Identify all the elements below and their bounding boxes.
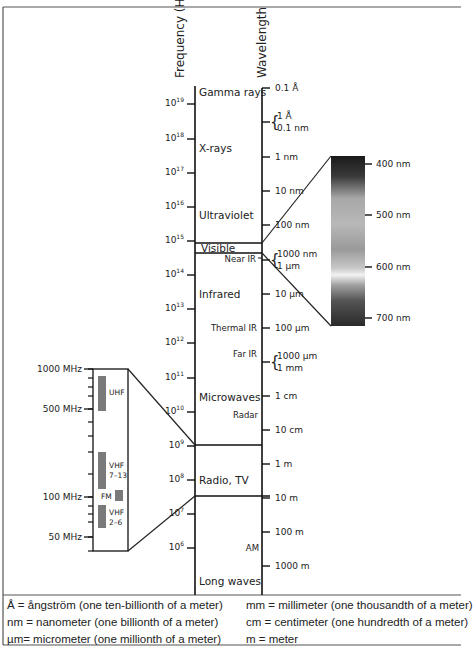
legend-millimeter: mm = millimeter (one thousandth of a met… [246,597,473,614]
frequency-tick-label: 1012 [165,335,184,347]
frequency-tick-label: 1016 [165,199,184,211]
radio-band-label: VHF [109,508,124,517]
frequency-tick-label: 1013 [165,301,184,313]
radio-band-label: FM [101,492,112,501]
wavelength-tick-label: 0.1 Å [275,82,299,93]
wavelength-tick-label-alt: 1 mm [277,363,303,373]
wavelength-tick-label: 1 Å [277,110,293,121]
wavelength-tick-label: 1000 µm [277,351,317,361]
frequency-tick-label: 1011 [165,370,184,382]
frequency-ticks: 1019101810171016101510141013101210111010… [165,96,195,552]
wavelength-tick-label: 10 µm [275,289,304,299]
wavelength-tick-label: 1 nm [275,152,298,162]
band-label: Ultraviolet [199,209,254,221]
subband-label: Near IR [225,254,257,264]
legend-right: mm = millimeter (one thousandth of a met… [246,597,473,647]
radio-band-bar [98,505,106,528]
radio-tick-label: 500 MHz [43,404,83,414]
visible-spectrum-ticks: 400 nm500 nm600 nm700 nm [365,159,411,323]
visible-tick-label: 600 nm [376,262,411,272]
radio-band-bar [115,490,123,501]
visible-spectrum-inset: 400 nm500 nm600 nm700 nm [262,156,411,326]
radio-tick-label: 100 MHz [43,492,83,502]
legend-left: Å = ångström (one ten-billionth of a met… [7,597,223,647]
wavelength-axis-title: Wavelength [255,7,269,78]
wavelength-tick-label: 100 µm [275,323,310,333]
frequency-tick-label: 1018 [165,131,184,143]
radio-band-label: VHF [109,461,124,470]
frequency-tick-label: 1019 [165,96,184,108]
band-labels: Gamma raysX-raysUltravioletVisibleInfrar… [199,86,266,587]
wavelength-tick-label: 1000 m [275,561,310,571]
frequency-tick-label: 1017 [165,165,184,177]
band-label: Microwaves [199,391,260,403]
frequency-tick-label: 1014 [165,267,184,279]
legend-meter: m = meter [246,631,473,647]
radio-ticks: 1000 MHz500 MHz100 MHz50 MHz [37,364,93,542]
radio-minor-ticks [88,369,93,551]
radio-tick-label: 50 MHz [48,532,82,542]
legend-centimeter: cm = centimeter (one hundredth of a mete… [246,614,473,631]
radio-inset: 1000 MHz500 MHz100 MHz50 MHz UHFVHF7–13F… [37,364,195,551]
wavelength-tick-label: 100 m [275,527,304,537]
wavelength-tick-label-alt: 0.1 nm [277,123,309,133]
band-label: X-rays [199,142,232,154]
frequency-tick-label: 106 [169,540,184,552]
radio-band-bar [98,452,106,489]
frequency-tick-label: 109 [169,438,184,450]
radio-band-label: UHF [109,388,124,397]
subband-label: Thermal IR [210,323,257,333]
frequency-tick-label: 1015 [165,233,184,245]
radio-band-sublabel: 7–13 [109,471,127,480]
band-label: Radio, TV [199,474,250,486]
visible-tick-label: 500 nm [376,210,411,220]
wavelength-tick-label: 10 cm [275,425,303,435]
wavelength-tick-label: 1 m [275,459,292,469]
band-label: Gamma rays [199,86,266,98]
visible-spectrum-bar [331,156,365,326]
visible-tick-label: 400 nm [376,159,411,169]
subband-label: AM [246,543,259,553]
subband-label: Far IR [233,349,257,359]
wavelength-tick-label: 1 cm [275,391,297,401]
band-label: Long waves [199,575,261,587]
wavelength-tick-label: 100 nm [275,220,310,230]
subband-label: Radar [233,410,259,420]
radio-tick-label: 1000 MHz [37,364,82,374]
visible-tick-label: 700 nm [376,313,411,323]
radio-zoom-line-top [128,369,195,445]
frequency-axis-title: Frequency (Hz) [173,0,187,78]
wavelength-tick-label: 10 nm [275,186,304,196]
legend-micrometer: µm= micrometer (one millionth of a meter… [7,631,223,647]
band-label: Infrared [199,288,240,300]
frequency-tick-label: 108 [169,472,184,484]
radio-band-bar [98,376,106,411]
radio-zoom-line-bottom [128,496,195,551]
wavelength-ticks: 0.1 Å{1 Å0.1 nm1 nm10 nm100 nm{1000 nm1 … [262,82,317,571]
radio-band-sublabel: 2–6 [109,518,123,527]
legend-angstrom: Å = ångström (one ten-billionth of a met… [7,597,223,614]
wavelength-tick-label: 10 m [275,493,298,503]
wavelength-tick-label: 1000 nm [277,249,317,259]
legend-nanometer: nm = nanometer (one billionth of a meter… [7,614,223,631]
band-label: Visible [201,242,235,254]
wavelength-tick-label-alt: 1 µm [277,261,300,271]
